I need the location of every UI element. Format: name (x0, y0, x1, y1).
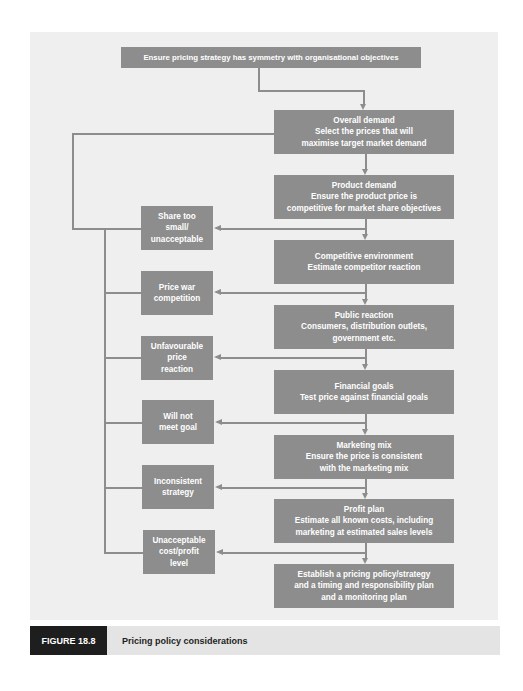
top-objective-box: Ensure pricing strategy has symmetry wit… (121, 47, 421, 68)
step-line: with the marketing mix (320, 463, 409, 475)
step-financial-goals: Financial goals Test price against finan… (274, 370, 454, 414)
failure-arrow-line-1 (220, 228, 366, 230)
step-line: Ensure the product price is (311, 191, 417, 203)
step-line: marketing at estimated sales levels (296, 527, 433, 539)
feedback-stub-3 (104, 357, 141, 359)
failure-line: reaction (161, 364, 193, 376)
failure-line: competition (154, 293, 200, 305)
step-line: Estimate competitor reaction (308, 262, 421, 274)
step-line: Select the prices that will (315, 126, 413, 138)
failure-arrow-line-5 (221, 487, 366, 489)
failure-unfavourable-reaction: Unfavourable price reaction (141, 336, 213, 380)
step-line: Test price against financial goals (300, 392, 428, 404)
arrow-left-icon (214, 354, 221, 360)
arrow-down-icon (362, 169, 368, 175)
connector-top-horizontal (258, 90, 364, 92)
step-title: Establish a pricing policy/strategy (298, 569, 431, 581)
step-competitive-environment: Competitive environment Estimate competi… (274, 240, 454, 284)
feedback-stub-4 (104, 422, 142, 424)
step-title: Competitive environment (315, 251, 413, 263)
figure-caption: FIGURE 18.8 Pricing policy consideration… (30, 626, 500, 655)
step-line: Consumers, distribution outlets, (301, 321, 427, 333)
feedback-inner-vertical (104, 228, 106, 554)
arrow-left-icon (216, 549, 223, 555)
arrow-down-icon (362, 558, 368, 564)
step-title: Public reaction (335, 310, 394, 322)
failure-share-too-small: Share too small/ unacceptable (141, 206, 213, 250)
connector-main-2 (365, 219, 367, 234)
step-line: maximise target market demand (301, 138, 426, 150)
step-establish-policy: Establish a pricing policy/strategy and … (274, 564, 454, 608)
step-title: Financial goals (334, 381, 393, 393)
step-public-reaction: Public reaction Consumers, distribution … (274, 305, 454, 349)
step-profit-plan: Profit plan Estimate all known costs, in… (274, 499, 454, 543)
arrow-down-icon (362, 364, 368, 370)
step-title: Marketing mix (336, 440, 391, 452)
arrow-down-icon (362, 429, 368, 435)
failure-unacceptable-cost: Unacceptable cost/profit level (143, 530, 215, 574)
failure-line: small/ (165, 222, 188, 234)
arrow-down-icon (362, 493, 368, 499)
failure-line: meet goal (159, 422, 197, 434)
failure-arrow-line-2 (220, 292, 366, 294)
failure-arrow-line-6 (222, 552, 366, 554)
step-marketing-mix: Marketing mix Ensure the price is consis… (274, 435, 454, 479)
step-line: Estimate all known costs, including (295, 515, 433, 527)
connector-top-vertical (258, 68, 260, 91)
failure-line: Inconsistent (154, 476, 202, 488)
failure-arrow-line-4 (221, 422, 366, 424)
arrow-left-icon (214, 225, 221, 231)
failure-line: unacceptable (151, 234, 203, 246)
feedback-stub-2 (104, 292, 141, 294)
figure-number-label: FIGURE 18.8 (30, 626, 107, 655)
failure-line: Unacceptable (152, 535, 205, 547)
failure-line: Unfavourable (151, 341, 203, 353)
failure-arrow-line-3 (220, 357, 366, 359)
failure-line: level (170, 558, 188, 570)
step-line: and a monitoring plan (321, 592, 407, 604)
feedback-stub-5 (104, 487, 142, 489)
failure-line: Price war (159, 282, 195, 294)
step-line: government etc. (332, 333, 395, 345)
arrow-down-icon (362, 234, 368, 240)
step-title: Overall demand (333, 115, 394, 127)
arrow-down-icon (362, 299, 368, 305)
step-title: Profit plan (344, 504, 384, 516)
failure-line: cost/profit (159, 546, 199, 558)
feedback-overall-horizontal (72, 133, 274, 135)
figure-title: Pricing policy considerations (122, 636, 248, 646)
step-line: competitive for market share objectives (287, 203, 441, 215)
step-product-demand: Product demand Ensure the product price … (274, 175, 454, 219)
failure-inconsistent-strategy: Inconsistent strategy (142, 465, 214, 509)
failure-line: price (167, 352, 187, 364)
failure-will-not-meet-goal: Will not meet goal (142, 400, 214, 444)
failure-price-war: Price war competition (141, 271, 213, 315)
arrow-left-icon (214, 289, 221, 295)
feedback-stub-6 (104, 552, 143, 554)
step-line: and a timing and responsibility plan (294, 580, 434, 592)
feedback-outer-bottom (72, 228, 142, 230)
connector-top-down (363, 90, 365, 104)
failure-line: Will not (163, 411, 192, 423)
feedback-outer-vertical (72, 133, 74, 229)
step-title: Product demand (332, 180, 397, 192)
failure-line: Share too (158, 211, 196, 223)
step-line: Ensure the price is consistent (306, 451, 422, 463)
step-overall-demand: Overall demand Select the prices that wi… (274, 110, 454, 154)
arrow-left-icon (215, 484, 222, 490)
connector-main-1 (365, 154, 367, 169)
connector-main-7 (365, 543, 367, 558)
connector-main-6 (365, 479, 367, 493)
failure-line: strategy (162, 487, 194, 499)
arrow-left-icon (215, 419, 222, 425)
top-objective-text: Ensure pricing strategy has symmetry wit… (143, 52, 398, 64)
